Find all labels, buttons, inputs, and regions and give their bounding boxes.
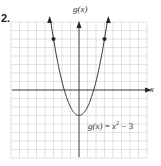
- coordinate-graph: [0, 0, 161, 166]
- equation-lhs: g(x): [88, 121, 103, 131]
- curve-arrow-left-icon: [47, 16, 52, 23]
- equation-label: g(x) = x2 − 3: [88, 120, 133, 131]
- equation-rest: − 3: [119, 121, 133, 131]
- y-axis-label: g(x): [73, 4, 88, 14]
- point-right: [103, 37, 107, 41]
- point-left: [52, 37, 56, 41]
- curve-arrow-right-icon: [106, 16, 111, 23]
- equation-equals: =: [103, 121, 113, 131]
- x-axis-label: x: [150, 84, 154, 94]
